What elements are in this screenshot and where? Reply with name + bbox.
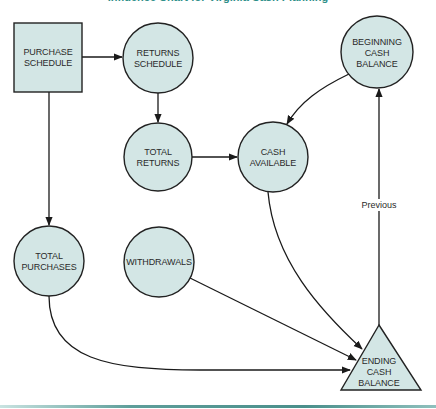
node-beginning-cash-balance-shape [341,16,413,88]
bottom-divider-bar [0,405,436,408]
node-returns-schedule-shape [123,23,193,93]
edge-label-previous: Previous [360,199,397,211]
node-purchase-schedule-shape [14,23,82,92]
edge-cash-available-to-ending [268,192,362,349]
node-cash-available-shape [238,122,308,192]
node-total-returns-shape [124,123,192,191]
node-withdrawals-shape [124,227,194,297]
node-ending-cash-balance-shape [341,325,421,390]
edge-total-purchases-to-ending [49,296,350,370]
edge-beginning-to-cash-available [287,74,349,124]
node-total-purchases-shape [14,226,84,296]
edges [49,57,379,370]
